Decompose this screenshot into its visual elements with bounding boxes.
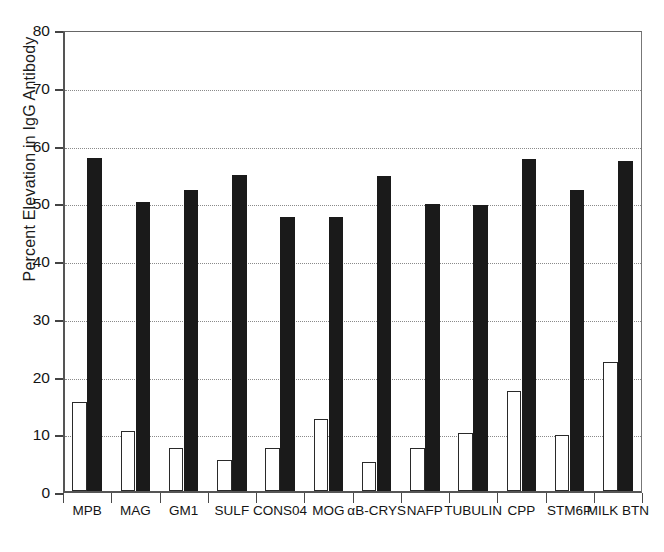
bar-filled-mag (136, 202, 151, 491)
x-tick-9 (497, 493, 498, 503)
x-tick-0 (63, 493, 64, 503)
x-tick-label-nafp: NAFP (407, 503, 443, 518)
y-tick-label-80: 80 (16, 22, 50, 40)
bar-filled-cpp (522, 159, 537, 491)
x-tick-label-tubulin: TUBULIN (444, 503, 502, 518)
x-tick-label-stm6p: STM6P (547, 503, 592, 518)
bar-filled-mpb (87, 158, 102, 491)
x-tick-12 (642, 493, 643, 503)
x-tick-5 (304, 493, 305, 503)
y-tick-label-60: 60 (16, 138, 50, 156)
bar-chart-figure: Percent Elevation in IgG Antibody 010203… (0, 0, 664, 552)
x-tick-label--b-crys: αB-CRYS (347, 503, 406, 518)
bar-open-mag (121, 431, 136, 491)
bar-filled--b-crys (377, 176, 392, 491)
y-tick-label-0: 0 (16, 484, 50, 502)
x-tick-label-gm1: GM1 (169, 503, 198, 518)
x-tick-2 (160, 493, 161, 503)
bar-filled-tubulin (473, 205, 488, 491)
y-tick-label-40: 40 (16, 253, 50, 271)
bar-open-cons04 (265, 448, 280, 491)
bar-open-cpp (507, 391, 522, 491)
x-tick-label-mpb: MPB (72, 503, 101, 518)
x-tick-label-cons04: CONS04 (253, 503, 307, 518)
x-tick-label-mog: MOG (312, 503, 344, 518)
bar-open-nafp (410, 448, 425, 491)
x-tick-10 (546, 493, 547, 503)
bar-open--b-crys (362, 462, 377, 491)
x-tick-1 (111, 493, 112, 503)
plot-area (63, 31, 642, 493)
bar-open-tubulin (458, 433, 473, 491)
y-tick-label-70: 70 (16, 80, 50, 98)
y-tick-label-30: 30 (16, 311, 50, 329)
x-tick-label-sulf: SULF (215, 503, 250, 518)
bar-filled-cons04 (280, 217, 295, 491)
bar-filled-sulf (232, 175, 247, 491)
x-tick-label-cpp: CPP (507, 503, 535, 518)
bar-open-mpb (72, 402, 87, 491)
bar-filled-nafp (425, 204, 440, 491)
bar-filled-mog (329, 217, 344, 491)
x-tick-6 (353, 493, 354, 503)
bars-layer (65, 32, 641, 491)
bar-filled-gm1 (184, 190, 199, 491)
bar-open-mog (314, 419, 329, 491)
y-tick-label-50: 50 (16, 195, 50, 213)
y-tick-label-10: 10 (16, 426, 50, 444)
x-tick-label-mag: MAG (120, 503, 151, 518)
x-tick-3 (208, 493, 209, 503)
x-tick-11 (594, 493, 595, 503)
bar-filled-stm6p (570, 190, 585, 491)
x-tick-label-milk-btn: MILK BTN (587, 503, 649, 518)
y-tick-label-20: 20 (16, 369, 50, 387)
x-tick-8 (449, 493, 450, 503)
x-tick-4 (256, 493, 257, 503)
bar-filled-milk-btn (618, 161, 633, 491)
bar-open-stm6p (555, 435, 570, 491)
bar-open-gm1 (169, 448, 184, 491)
bar-open-milk-btn (603, 362, 618, 491)
x-tick-7 (401, 493, 402, 503)
bar-open-sulf (217, 460, 232, 491)
